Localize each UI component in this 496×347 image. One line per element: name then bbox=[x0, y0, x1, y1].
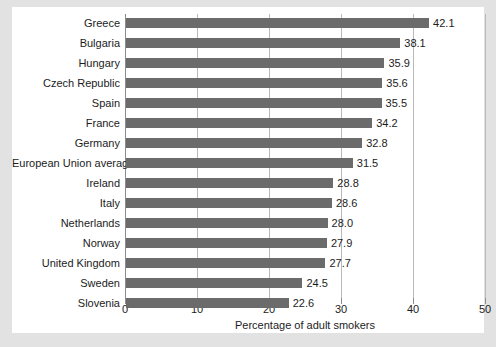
category-label: Bulgaria bbox=[12, 33, 120, 53]
bar-value-label: 35.5 bbox=[382, 93, 407, 113]
bar-value-label: 31.5 bbox=[353, 153, 378, 173]
bar-row: Germany32.8 bbox=[12, 133, 484, 153]
category-label: United Kingdom bbox=[12, 253, 120, 273]
bar-value-label: 38.1 bbox=[400, 33, 425, 53]
category-label: Italy bbox=[12, 193, 120, 213]
category-label: Greece bbox=[12, 13, 120, 33]
bar-value-label: 34.2 bbox=[372, 113, 397, 133]
bar-row: Hungary35.9 bbox=[12, 53, 484, 73]
bar-value-label: 35.6 bbox=[382, 73, 407, 93]
bar-value-label: 27.7 bbox=[325, 253, 350, 273]
bar-row: Norway27.9 bbox=[12, 233, 484, 253]
bar-row: Netherlands28.0 bbox=[12, 213, 484, 233]
bar-row: Slovenia22.6 bbox=[12, 293, 484, 313]
bar-value-label: 42.1 bbox=[429, 13, 454, 33]
bar bbox=[126, 238, 327, 248]
bar-value-label: 28.0 bbox=[328, 213, 353, 233]
bar-value-label: 28.8 bbox=[333, 173, 358, 193]
bar bbox=[126, 38, 400, 48]
bar-row: Spain35.5 bbox=[12, 93, 484, 113]
bar-row: Greece42.1 bbox=[12, 13, 484, 33]
category-label: France bbox=[12, 113, 120, 133]
gridline bbox=[485, 14, 486, 298]
bar-row: Bulgaria38.1 bbox=[12, 33, 484, 53]
bar bbox=[126, 158, 353, 168]
bar-value-label: 35.9 bbox=[384, 53, 409, 73]
bar-value-label: 32.8 bbox=[362, 133, 387, 153]
bar-value-label: 22.6 bbox=[289, 293, 314, 313]
bar bbox=[126, 98, 382, 108]
bar-value-label: 24.5 bbox=[302, 273, 327, 293]
x-axis-label: Percentage of adult smokers bbox=[125, 319, 485, 331]
bar-row: Italy28.6 bbox=[12, 193, 484, 213]
bar bbox=[126, 218, 328, 228]
category-label: Czech Republic bbox=[12, 73, 120, 93]
chart-plot-area: 01020304050 Greece42.1Bulgaria38.1Hungar… bbox=[12, 7, 484, 333]
bar-row: Czech Republic35.6 bbox=[12, 73, 484, 93]
bar bbox=[126, 278, 302, 288]
category-label: Slovenia bbox=[12, 293, 120, 313]
bar-row: Ireland28.8 bbox=[12, 173, 484, 193]
bar-value-label: 27.9 bbox=[327, 233, 352, 253]
bar bbox=[126, 58, 384, 68]
bar bbox=[126, 78, 382, 88]
category-label: Germany bbox=[12, 133, 120, 153]
bar bbox=[126, 178, 333, 188]
bar bbox=[126, 258, 325, 268]
chart-figure: 01020304050 Greece42.1Bulgaria38.1Hungar… bbox=[12, 7, 484, 333]
bar bbox=[126, 18, 429, 28]
category-label: European Union average bbox=[12, 153, 120, 173]
category-label: Netherlands bbox=[12, 213, 120, 233]
bar-row: European Union average31.5 bbox=[12, 153, 484, 173]
bar-row: Sweden24.5 bbox=[12, 273, 484, 293]
category-label: Ireland bbox=[12, 173, 120, 193]
bar bbox=[126, 198, 332, 208]
bar-value-label: 28.6 bbox=[332, 193, 357, 213]
category-label: Sweden bbox=[12, 273, 120, 293]
bar-row: United Kingdom27.7 bbox=[12, 253, 484, 273]
bar bbox=[126, 118, 372, 128]
category-label: Spain bbox=[12, 93, 120, 113]
category-label: Norway bbox=[12, 233, 120, 253]
bar bbox=[126, 298, 289, 308]
category-label: Hungary bbox=[12, 53, 120, 73]
bar bbox=[126, 138, 362, 148]
bar-row: France34.2 bbox=[12, 113, 484, 133]
